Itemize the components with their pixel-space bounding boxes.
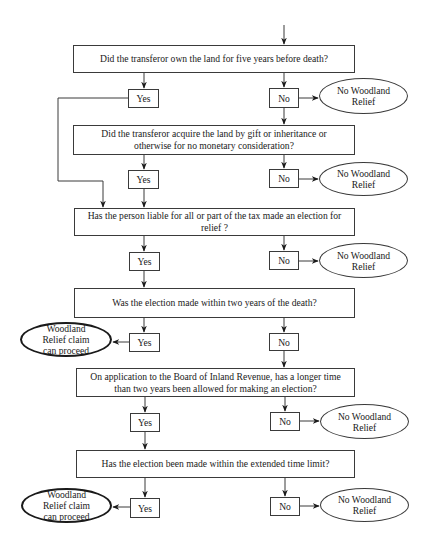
question-text: On application to the Board of Inland Re… (86, 371, 346, 395)
outcome-text: No Woodland Relief (330, 494, 400, 516)
question-text: Was the election made within two years o… (112, 297, 317, 309)
question-text: Did the transferor acquire the land by g… (84, 128, 344, 152)
yes-box-6: Yes (130, 498, 160, 518)
outcome-text: No Woodland Relief (329, 85, 399, 107)
no-box-1: No (269, 88, 299, 108)
yes-box-2: Yes (128, 170, 159, 189)
question-box-2: Did the transferor acquire the land by g… (73, 125, 355, 155)
question-box-1: Did the transferor own the land for five… (73, 45, 355, 73)
question-box-5: On application to the Board of Inland Re… (76, 368, 355, 397)
outcome-text: No Woodland Relief (329, 250, 399, 272)
no-box-2: No (269, 169, 299, 188)
no-box-3: No (269, 251, 299, 270)
yes-box-3: Yes (129, 252, 160, 271)
no-box-6: No (270, 497, 300, 516)
no-relief-outcome-5: No Woodland Relief (320, 488, 409, 522)
no-box-5: No (270, 412, 300, 431)
no-box-4: No (269, 333, 299, 351)
yes-box-1: Yes (128, 89, 159, 108)
relief-proceed-outcome-1: Woodland Relief claim can proceed (20, 322, 112, 357)
no-relief-outcome-2: No Woodland Relief (319, 162, 408, 196)
no-relief-outcome-4: No Woodland Relief (320, 404, 409, 439)
question-box-4: Was the election made within two years o… (74, 288, 355, 318)
question-box-6: Has the election been made within the ex… (76, 450, 355, 478)
outcome-text: No Woodland Relief (330, 411, 400, 433)
question-text: Has the election been made within the ex… (102, 458, 330, 470)
no-relief-outcome-3: No Woodland Relief (319, 243, 408, 278)
yes-box-4: Yes (129, 333, 160, 352)
outcome-text: Woodland Relief claim can proceed (38, 489, 96, 522)
question-text: Did the transferor own the land for five… (100, 53, 328, 65)
outcome-text: Woodland Relief claim can proceed (37, 323, 95, 356)
yes-box-5: Yes (130, 413, 160, 432)
question-box-3: Has the person liable for all or part of… (74, 208, 355, 236)
question-text: Has the person liable for all or part of… (81, 210, 348, 234)
relief-proceed-outcome-2: Woodland Relief claim can proceed (21, 488, 112, 523)
no-relief-outcome-1: No Woodland Relief (319, 78, 408, 114)
outcome-text: No Woodland Relief (329, 168, 399, 190)
